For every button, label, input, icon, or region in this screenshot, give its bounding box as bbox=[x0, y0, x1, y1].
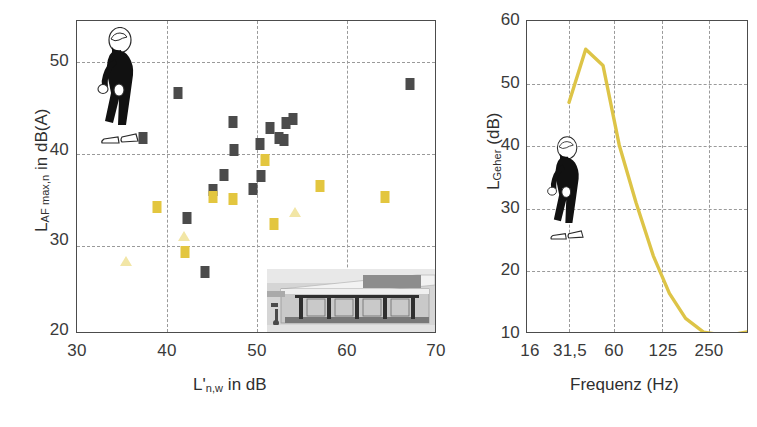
scatter-ytick-20: 20 bbox=[43, 320, 69, 340]
scatter-point bbox=[270, 218, 279, 230]
spectrum-ytick-40: 40 bbox=[494, 135, 520, 155]
spectrum-ytick-50: 50 bbox=[494, 73, 520, 93]
scatter-point bbox=[182, 212, 191, 224]
scatter-point bbox=[249, 183, 258, 195]
spectrum-xtick-16: 16 bbox=[520, 341, 539, 361]
scatter-point bbox=[138, 132, 147, 144]
scatter-point bbox=[228, 193, 237, 205]
scatter-xtick-70: 70 bbox=[426, 341, 445, 361]
scatter-point bbox=[380, 191, 389, 203]
spectrum-ytick-10: 10 bbox=[494, 323, 520, 343]
scatter-x-axis-title-main: L' bbox=[193, 375, 206, 394]
scatter-y-axis-title-sub: AF max,n bbox=[39, 175, 51, 223]
scatter-point bbox=[280, 134, 289, 146]
scatter-x-axis-title-tail: in dB bbox=[223, 375, 266, 394]
scatter-point bbox=[256, 170, 265, 182]
scatter-point bbox=[406, 78, 415, 90]
scatter-point bbox=[181, 246, 190, 258]
scatter-point bbox=[316, 180, 325, 192]
scatter-panel: LAF max,n in dB(A) 50 40 30 20 bbox=[0, 0, 450, 427]
spectrum-ytick-60: 60 bbox=[494, 10, 520, 30]
scatter-point bbox=[178, 231, 190, 241]
spectrum-panel: LGeher (dB) 60 50 40 30 20 10 bbox=[460, 0, 757, 427]
figure-container: LAF max,n in dB(A) 50 40 30 20 bbox=[0, 0, 757, 427]
scatter-point bbox=[228, 116, 237, 128]
scatter-point bbox=[208, 191, 217, 203]
scatter-point bbox=[200, 266, 209, 278]
scatter-point bbox=[153, 201, 162, 213]
scatter-xtick-50: 50 bbox=[247, 341, 266, 361]
scatter-point bbox=[261, 154, 270, 166]
scatter-y-axis-title: LAF max,n in dB(A) bbox=[32, 109, 52, 232]
spectrum-xtick-125: 125 bbox=[649, 341, 678, 361]
spectrum-xtick-250: 250 bbox=[695, 341, 724, 361]
spectrum-ytick-20: 20 bbox=[494, 260, 520, 280]
scatter-ytick-50: 50 bbox=[43, 51, 69, 71]
scatter-x-axis-title: L'n,w in dB bbox=[193, 375, 267, 395]
scatter-ytick-30: 30 bbox=[43, 230, 69, 250]
spectrum-plot-area bbox=[526, 20, 748, 333]
scatter-plot-area bbox=[76, 20, 436, 333]
scatter-xtick-40: 40 bbox=[157, 341, 176, 361]
scatter-point bbox=[229, 144, 238, 156]
spectrum-curve-path bbox=[569, 49, 748, 333]
scatter-point bbox=[219, 169, 228, 181]
scatter-point bbox=[289, 113, 298, 125]
scatter-ytick-40: 40 bbox=[43, 140, 69, 160]
scatter-xtick-60: 60 bbox=[337, 341, 356, 361]
scatter-x-axis-title-sub: n,w bbox=[206, 382, 223, 394]
scatter-point bbox=[255, 138, 264, 150]
spectrum-y-axis-title-main: L bbox=[484, 181, 503, 190]
scatter-xtick-30: 30 bbox=[67, 341, 86, 361]
scatter-point bbox=[265, 122, 274, 134]
spectrum-x-axis-title: Frequenz (Hz) bbox=[570, 375, 679, 395]
spectrum-curve bbox=[527, 21, 748, 333]
scatter-point bbox=[173, 87, 182, 99]
spectrum-xtick-60: 60 bbox=[604, 341, 623, 361]
spectrum-xtick-31_5: 31,5 bbox=[553, 341, 587, 361]
scatter-point bbox=[120, 256, 132, 266]
scatter-marker-layer bbox=[77, 21, 435, 332]
spectrum-ytick-30: 30 bbox=[494, 198, 520, 218]
scatter-point bbox=[289, 207, 301, 217]
